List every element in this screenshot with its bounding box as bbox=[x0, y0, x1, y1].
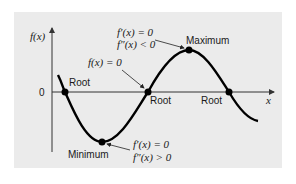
minimum-label: Minimum bbox=[68, 149, 109, 160]
zero-tick-label: 0 bbox=[39, 87, 45, 98]
minimum-point bbox=[99, 139, 106, 146]
max-condition-second-derivative: f″(x) < 0 bbox=[117, 38, 156, 51]
root-label-2: Root bbox=[150, 95, 171, 106]
function-diagram: f(x) 0 x Root Root Root Maximum Minimum … bbox=[0, 0, 296, 184]
max-pointer-arrow bbox=[155, 40, 184, 48]
root-point-3 bbox=[226, 89, 233, 96]
min-condition-first-derivative: f′(x) = 0 bbox=[133, 138, 170, 151]
root-point-1 bbox=[62, 89, 69, 96]
root-condition: f(x) = 0 bbox=[88, 56, 122, 69]
y-axis-label: f(x) bbox=[30, 30, 46, 43]
root-label-3: Root bbox=[201, 95, 222, 106]
root-pointer-arrow bbox=[122, 70, 144, 88]
min-condition-second-derivative: f″(x) > 0 bbox=[133, 151, 172, 164]
x-axis-label: x bbox=[265, 94, 271, 106]
maximum-point bbox=[186, 47, 193, 54]
min-pointer-arrow bbox=[107, 144, 130, 150]
root-label-1: Root bbox=[69, 77, 90, 88]
maximum-label: Maximum bbox=[186, 35, 229, 46]
